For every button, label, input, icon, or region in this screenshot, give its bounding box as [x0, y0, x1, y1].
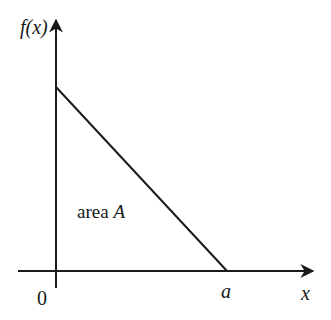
region-label-prefix: area: [77, 201, 113, 222]
x-intercept-label: a: [221, 280, 231, 302]
x-axis-label: x: [300, 282, 310, 304]
function-line: [56, 87, 227, 271]
y-axis-label: f(x): [20, 16, 48, 39]
triangle-distribution-diagram: f(x) x 0 a area A: [0, 0, 331, 320]
region-label: area A: [77, 201, 125, 222]
region-label-var: A: [111, 201, 125, 222]
origin-label: 0: [37, 287, 47, 309]
